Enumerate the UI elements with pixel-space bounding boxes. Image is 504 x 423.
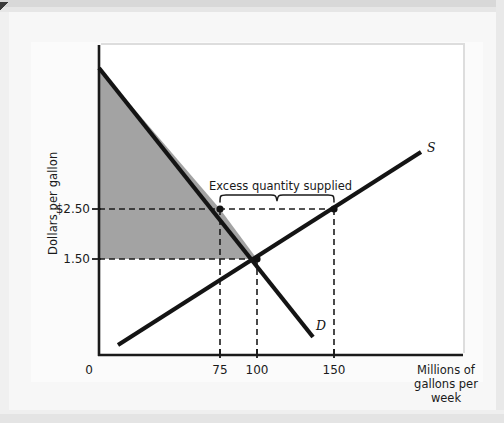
y-tick-label-250: $2.50 <box>40 202 90 216</box>
marker-equilibrium-100[interactable] <box>253 255 260 262</box>
marker-quantity-demanded-75[interactable] <box>216 205 223 212</box>
x-axis-title-line1: Millions of <box>417 363 475 377</box>
supply-curve-label: S <box>427 140 436 155</box>
excess-quantity-supplied-label: Excess quantity supplied <box>209 179 352 193</box>
x-axis-origin-label: 0 <box>69 363 109 377</box>
y-tick-label-150: 1.50 <box>40 252 90 266</box>
x-tick-label-75: 75 <box>200 363 240 377</box>
x-axis-title-line2: gallons per week <box>414 377 478 405</box>
marker-quantity-supplied-150[interactable] <box>330 205 337 212</box>
demand-curve-label: D <box>316 318 326 333</box>
x-axis-title: Millions of gallons per week <box>398 363 494 405</box>
x-tick-label-150: 150 <box>314 363 354 377</box>
x-tick-label-100: 100 <box>237 363 277 377</box>
excess-quantity-supplied-brace-icon <box>220 195 334 202</box>
